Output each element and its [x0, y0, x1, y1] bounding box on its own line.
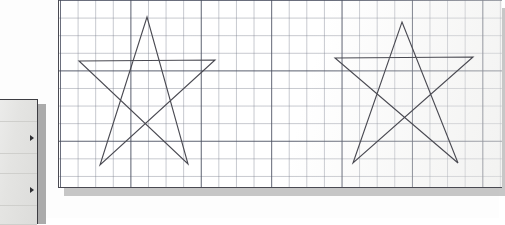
grid-major-lines: [59, 0, 502, 187]
triangle-right-icon[interactable]: [30, 187, 34, 193]
left-side-panel-shadow: [38, 104, 46, 224]
panel-row-0[interactable]: [0, 100, 37, 122]
triangle-right-icon[interactable]: [30, 135, 34, 141]
panel-row-4[interactable]: [0, 206, 37, 225]
panel-row-1[interactable]: [0, 122, 37, 154]
panel-row-2[interactable]: [0, 154, 37, 174]
panel-row-3[interactable]: [0, 174, 37, 206]
left-side-panel[interactable]: [0, 99, 38, 224]
graph-paper-sheet: [58, 0, 502, 188]
